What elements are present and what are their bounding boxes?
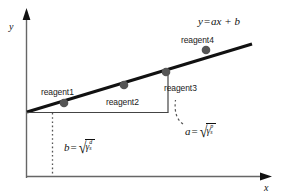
data-point-reagent1 (60, 99, 69, 108)
slope-radicand: γps (206, 123, 216, 137)
figure-canvas: y x y=ax + b reagent1 reagent2 reagent3 … (0, 0, 285, 196)
y-axis (23, 8, 31, 178)
intercept-annotation: b=√γds (64, 140, 95, 154)
slope-subscript: s (210, 129, 212, 135)
data-point-reagent2 (120, 81, 129, 90)
point-label-reagent4: reagent4 (181, 36, 214, 45)
x-axis (27, 173, 273, 181)
data-point-reagent3 (162, 68, 171, 77)
slope-operator: = (191, 125, 199, 137)
slope-leader-line (175, 100, 183, 124)
slope-radical: √γps (199, 124, 216, 138)
intercept-operator: = (70, 141, 78, 153)
intercept-scripts: ds (89, 141, 94, 150)
y-axis-label: y (9, 22, 13, 32)
point-label-reagent2: reagent2 (106, 98, 139, 107)
slope-annotation: a=√γps (185, 124, 216, 138)
point-label-reagent3: reagent3 (164, 84, 197, 93)
slope-scripts: ps (210, 125, 215, 134)
x-axis-label: x (264, 183, 268, 193)
slope-lhs: a (185, 125, 191, 137)
fit-line-equation: y=ax + b (198, 16, 240, 27)
equation-operator: = (203, 15, 211, 27)
intercept-lhs: b (64, 141, 70, 153)
intercept-radical: √γds (78, 140, 95, 154)
figure-vector-layer (0, 0, 285, 196)
point-label-reagent1: reagent1 (41, 88, 74, 97)
equation-rhs: ax + b (211, 15, 240, 27)
data-point-reagent4 (202, 46, 211, 55)
intercept-radicand: γds (85, 139, 95, 153)
intercept-subscript: s (89, 145, 91, 151)
